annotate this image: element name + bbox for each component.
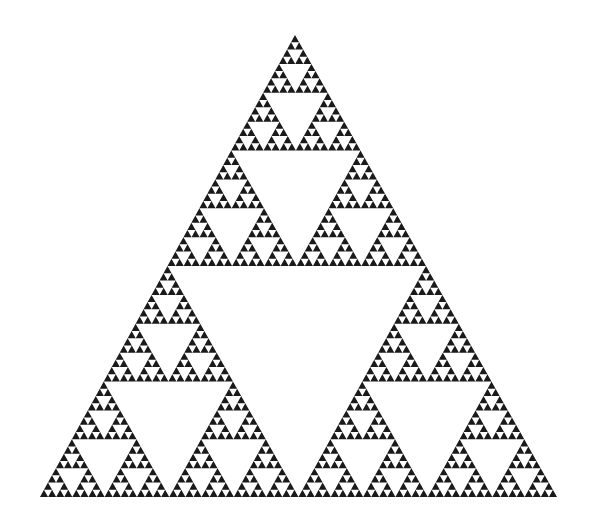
fractal-triangles [40, 35, 557, 497]
fractal-path [40, 35, 557, 497]
figure-canvas: Sierpinski triangle [0, 0, 592, 531]
sierpinski-triangle [0, 0, 592, 531]
